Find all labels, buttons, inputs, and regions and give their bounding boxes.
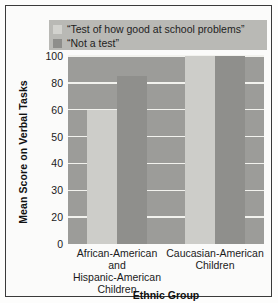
legend-label-test: “Test of how good at school problems” bbox=[67, 23, 244, 36]
chart-frame: “Test of how good at school problems” “N… bbox=[5, 5, 272, 297]
legend-item-not-a-test: “Not a test” bbox=[53, 36, 267, 50]
bar bbox=[87, 110, 117, 244]
x-tick-label-line: Caucasian-American bbox=[166, 247, 264, 259]
legend-item-test: “Test of how good at school problems” bbox=[53, 22, 267, 36]
y-tick-label: 40 bbox=[37, 158, 63, 169]
plot-area: 0203040506080100 bbox=[68, 56, 264, 244]
bar-groups bbox=[68, 56, 264, 244]
x-axis-labels: African-American andHispanic-AmericanChi… bbox=[68, 247, 264, 295]
x-tick-label: African-American andHispanic-AmericanChi… bbox=[68, 247, 166, 295]
y-tick-label: 0 bbox=[37, 239, 63, 250]
y-tick-label: 100 bbox=[37, 51, 63, 62]
x-tick-label: Caucasian-AmericanChildren bbox=[166, 247, 264, 295]
legend-swatch-dark-icon bbox=[53, 39, 62, 48]
y-axis-title: Mean Score on Verbal Tasks bbox=[17, 57, 29, 247]
x-axis-title: Ethnic Group bbox=[68, 289, 264, 301]
bar bbox=[215, 56, 245, 244]
chart-figure: “Test of how good at school problems” “N… bbox=[0, 0, 278, 303]
y-tick-label: 60 bbox=[37, 104, 63, 115]
y-tick-label: 50 bbox=[37, 131, 63, 142]
y-tick-label: 80 bbox=[37, 78, 63, 89]
x-tick-label-line: Hispanic-American bbox=[68, 271, 166, 283]
bar bbox=[185, 56, 215, 244]
chart-legend: “Test of how good at school problems” “N… bbox=[49, 20, 267, 50]
legend-swatch-light-icon bbox=[53, 25, 62, 34]
x-tick-label-line: Children bbox=[166, 259, 264, 271]
bar-group bbox=[68, 56, 166, 244]
y-tick-label: 20 bbox=[37, 212, 63, 223]
x-tick-label-line: African-American and bbox=[68, 247, 166, 271]
y-tick-label: 30 bbox=[37, 185, 63, 196]
bar-group bbox=[166, 56, 264, 244]
bar bbox=[117, 76, 147, 244]
legend-label-not-a-test: “Not a test” bbox=[67, 37, 119, 50]
